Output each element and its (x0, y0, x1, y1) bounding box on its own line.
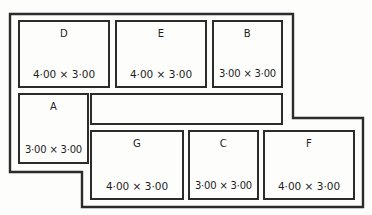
piece-f: F 4·00 × 3·00 (263, 130, 355, 200)
piece-g: G 4·00 × 3·00 (90, 130, 184, 200)
piece-dimensions: 3·00 × 3·00 (20, 145, 87, 155)
piece-c: C 3·00 × 3·00 (188, 130, 259, 200)
piece-dimensions: 4·00 × 3·00 (20, 69, 108, 80)
piece-label: A (20, 102, 87, 112)
piece-label: C (190, 139, 257, 149)
piece-d: D 4·00 × 3·00 (18, 20, 110, 88)
piece-label: E (117, 29, 205, 39)
piece-label: B (214, 29, 281, 39)
piece-label: G (92, 139, 182, 149)
piece-label: F (265, 139, 353, 149)
piece-e: E 4·00 × 3·00 (115, 20, 207, 88)
piece-a: A 3·00 × 3·00 (18, 93, 89, 164)
piece-dimensions: 4·00 × 3·00 (117, 69, 205, 80)
piece-b: B 3·00 × 3·00 (212, 20, 283, 88)
packing-layout-diagram: D 4·00 × 3·00 E 4·00 × 3·00 B 3·00 × 3·0… (0, 0, 372, 215)
piece-empty-slot (90, 93, 283, 125)
piece-label: D (20, 29, 108, 39)
piece-dimensions: 4·00 × 3·00 (265, 181, 353, 192)
piece-dimensions: 3·00 × 3·00 (190, 181, 257, 191)
piece-dimensions: 4·00 × 3·00 (92, 181, 182, 192)
piece-dimensions: 3·00 × 3·00 (214, 69, 281, 79)
